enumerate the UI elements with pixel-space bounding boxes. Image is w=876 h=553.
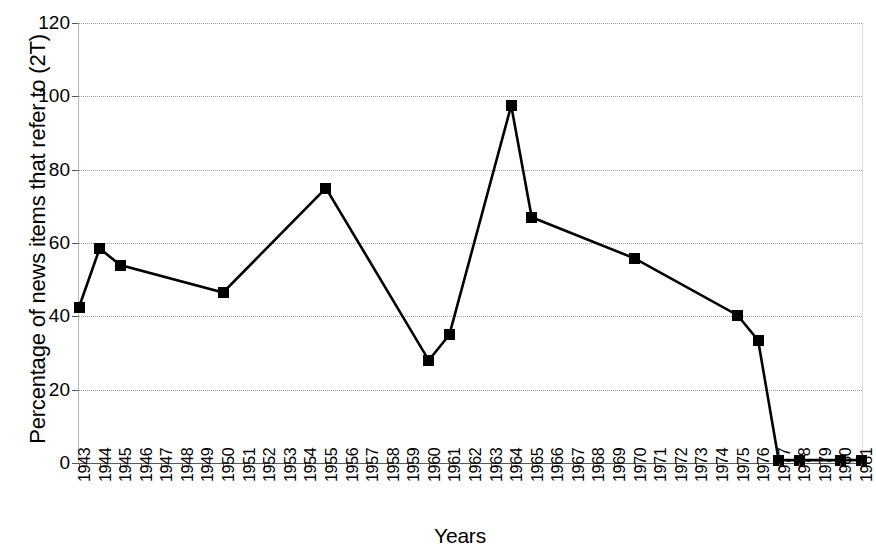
x-tick-label-1969: 1969 bbox=[612, 448, 628, 482]
x-tick-label-1947: 1947 bbox=[159, 448, 175, 482]
y-tick-label-60: 60 bbox=[14, 233, 70, 252]
x-tick-label-1966: 1966 bbox=[550, 448, 566, 482]
data-point-1961 bbox=[444, 329, 455, 340]
x-tick-label-1948: 1948 bbox=[180, 448, 196, 482]
gridline-100 bbox=[78, 96, 862, 97]
y-tick-mark-80 bbox=[72, 170, 78, 171]
x-tick-label-1956: 1956 bbox=[345, 448, 361, 482]
x-tick-label-1973: 1973 bbox=[694, 448, 710, 482]
x-tick-label-1961: 1961 bbox=[447, 448, 463, 482]
x-tick-label-1964: 1964 bbox=[509, 448, 525, 482]
x-tick-label-1981: 1981 bbox=[859, 448, 875, 482]
gridline-120 bbox=[78, 23, 862, 24]
y-tick-mark-120 bbox=[72, 23, 78, 24]
plot-area bbox=[78, 23, 862, 463]
x-tick-label-1970: 1970 bbox=[633, 448, 649, 482]
x-tick-label-1965: 1965 bbox=[530, 448, 546, 482]
gridline-80 bbox=[78, 170, 862, 171]
x-tick-label-1979: 1979 bbox=[818, 448, 834, 482]
x-tick-label-1974: 1974 bbox=[715, 448, 731, 482]
plot-right-border bbox=[862, 23, 863, 464]
x-tick-label-1953: 1953 bbox=[283, 448, 299, 482]
data-point-1964 bbox=[506, 100, 517, 111]
data-point-1975 bbox=[732, 310, 743, 321]
x-tick-label-1958: 1958 bbox=[386, 448, 402, 482]
x-tick-label-1968: 1968 bbox=[591, 448, 607, 482]
x-tick-label-1957: 1957 bbox=[365, 448, 381, 482]
data-point-1976 bbox=[753, 335, 764, 346]
x-tick-label-1975: 1975 bbox=[736, 448, 752, 482]
x-tick-label-1943: 1943 bbox=[77, 448, 93, 482]
gridline-40 bbox=[78, 316, 862, 317]
y-tick-mark-60 bbox=[72, 243, 78, 244]
data-point-1955 bbox=[320, 183, 331, 194]
y-tick-label-100: 100 bbox=[14, 86, 70, 105]
x-tick-label-1971: 1971 bbox=[653, 448, 669, 482]
x-tick-label-1967: 1967 bbox=[571, 448, 587, 482]
x-tick-label-1963: 1963 bbox=[489, 448, 505, 482]
x-tick-label-1960: 1960 bbox=[427, 448, 443, 482]
x-tick-label-1972: 1972 bbox=[674, 448, 690, 482]
data-point-1970 bbox=[629, 253, 640, 264]
x-tick-label-1945: 1945 bbox=[118, 448, 134, 482]
gridline-20 bbox=[78, 390, 862, 391]
x-tick-label-1955: 1955 bbox=[324, 448, 340, 482]
x-tick-label-1950: 1950 bbox=[221, 448, 237, 482]
data-point-1950 bbox=[218, 287, 229, 298]
y-tick-mark-100 bbox=[72, 96, 78, 97]
data-point-1944 bbox=[94, 243, 105, 254]
x-tick-label-1944: 1944 bbox=[98, 448, 114, 482]
x-tick-label-1951: 1951 bbox=[242, 448, 258, 482]
x-tick-label-1976: 1976 bbox=[756, 448, 772, 482]
x-tick-label-1962: 1962 bbox=[468, 448, 484, 482]
x-tick-label-1952: 1952 bbox=[262, 448, 278, 482]
x-tick-label-1980: 1980 bbox=[838, 448, 854, 482]
x-axis-title: Years bbox=[0, 524, 876, 548]
x-tick-label-1977: 1977 bbox=[777, 448, 793, 482]
line-chart: Percentage of news items that refer to (… bbox=[0, 0, 876, 553]
x-tick-label-1954: 1954 bbox=[303, 448, 319, 482]
y-tick-label-0: 0 bbox=[14, 453, 70, 472]
x-tick-label-1959: 1959 bbox=[406, 448, 422, 482]
y-tick-label-20: 20 bbox=[14, 380, 70, 399]
data-point-1943 bbox=[74, 302, 85, 313]
data-point-1960 bbox=[423, 355, 434, 366]
y-tick-label-40: 40 bbox=[14, 306, 70, 325]
x-tick-label-1978: 1978 bbox=[797, 448, 813, 482]
y-tick-mark-20 bbox=[72, 390, 78, 391]
x-tick-label-1946: 1946 bbox=[139, 448, 155, 482]
gridline-60 bbox=[78, 243, 862, 244]
y-tick-mark-40 bbox=[72, 316, 78, 317]
y-tick-label-120: 120 bbox=[14, 13, 70, 32]
data-point-1965 bbox=[526, 212, 537, 223]
y-tick-label-80: 80 bbox=[14, 160, 70, 179]
data-point-1945 bbox=[115, 260, 126, 271]
x-tick-label-1949: 1949 bbox=[200, 448, 216, 482]
